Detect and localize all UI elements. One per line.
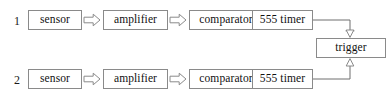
arrow-right-icon	[83, 72, 101, 86]
node-amplifier-2[interactable]: amplifier	[103, 69, 168, 89]
node-timer-1[interactable]: 555 timer	[252, 10, 313, 30]
node-trigger[interactable]: trigger	[316, 38, 386, 58]
node-amplifier-1[interactable]: amplifier	[103, 10, 168, 30]
connector-timer1-to-trigger	[313, 20, 354, 37]
arrow-right-icon	[169, 13, 187, 27]
arrow-right-icon	[169, 72, 187, 86]
arrow-right-icon	[83, 13, 101, 27]
row-label-2: 2	[10, 74, 24, 86]
row-label-1: 1	[10, 15, 24, 27]
node-sensor-1[interactable]: sensor	[28, 10, 82, 30]
node-sensor-2[interactable]: sensor	[28, 69, 82, 89]
block-diagram-canvas: 1 sensor amplifier comparator 555 timer …	[0, 0, 391, 98]
node-timer-2[interactable]: 555 timer	[252, 69, 313, 89]
connector-timer2-to-trigger	[313, 59, 354, 79]
